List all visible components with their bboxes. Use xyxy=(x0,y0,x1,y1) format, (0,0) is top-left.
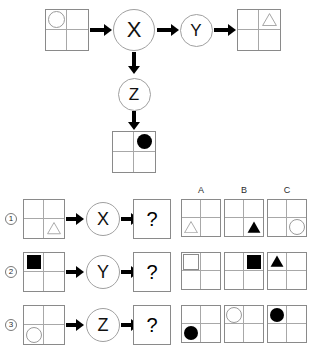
grid-cell-bottom-right xyxy=(67,30,88,50)
output-grid-y xyxy=(237,9,281,51)
row-3-option-B[interactable] xyxy=(224,305,264,343)
row-2-option-C[interactable] xyxy=(267,252,307,290)
filled-square-icon xyxy=(27,255,41,269)
row-1-option-B[interactable] xyxy=(224,199,264,237)
row-3-option-A[interactable] xyxy=(181,305,221,343)
row-1-question-box: ? xyxy=(133,199,171,239)
outlined-triangle-icon xyxy=(262,13,277,26)
row-2-option-B[interactable] xyxy=(224,252,264,290)
row-1-option-C[interactable] xyxy=(267,199,307,237)
grid-cell-top-left xyxy=(238,10,259,30)
grid-cell-top-right xyxy=(44,253,64,272)
row-1-option-A[interactable] xyxy=(181,199,221,237)
node-z: Z xyxy=(118,78,151,111)
input-grid xyxy=(45,9,89,51)
grid-cell-bottom-right xyxy=(287,218,306,236)
grid-cell-bottom-left xyxy=(268,271,287,289)
grid-cell-top-right xyxy=(44,200,64,219)
node-x: X xyxy=(113,9,155,51)
grid-cell-bottom-right xyxy=(44,219,64,238)
grid-cell-bottom-left xyxy=(182,218,201,236)
output-grid-z xyxy=(112,131,156,173)
outlined-circle-icon xyxy=(26,327,42,343)
row-3-operator-z: Z xyxy=(86,308,120,342)
outlined-circle-icon xyxy=(289,219,305,235)
outlined-triangle-icon xyxy=(184,221,198,233)
grid-cell-top-right xyxy=(201,306,220,324)
grid-cell-bottom-left xyxy=(24,272,44,291)
grid-cell-top-left xyxy=(46,10,67,30)
row-2-input-grid xyxy=(23,252,65,292)
grid-cell-bottom-left xyxy=(46,30,67,50)
grid-cell-top-left xyxy=(182,253,201,271)
grid-cell-bottom-right xyxy=(201,218,220,236)
grid-cell-bottom-left xyxy=(268,218,287,236)
grid-cell-bottom-right xyxy=(44,272,64,291)
grid-cell-bottom-left xyxy=(225,218,244,236)
outlined-circle-icon xyxy=(226,307,242,323)
grid-cell-top-right xyxy=(287,306,306,324)
puzzle-canvas: XYZ ABC1X?2Y?3Z? xyxy=(0,0,313,363)
filled-triangle-icon xyxy=(247,221,261,233)
grid-cell-bottom-right xyxy=(201,271,220,289)
grid-cell-bottom-right xyxy=(201,324,220,342)
grid-cell-bottom-left xyxy=(182,271,201,289)
grid-cell-top-right xyxy=(134,132,155,152)
outlined-triangle-icon xyxy=(47,222,61,234)
row-number-3: 3 xyxy=(5,319,17,331)
column-header-b: B xyxy=(224,186,264,195)
grid-cell-bottom-left xyxy=(24,219,44,238)
row-3-input-grid xyxy=(23,305,65,345)
grid-cell-top-left xyxy=(268,253,287,271)
grid-cell-top-right xyxy=(67,10,88,30)
row-1-operator-x: X xyxy=(86,202,120,236)
grid-cell-bottom-right xyxy=(287,271,306,289)
grid-cell-top-left xyxy=(268,306,287,324)
outlined-circle-icon xyxy=(48,11,65,28)
grid-cell-top-left xyxy=(268,200,287,218)
grid-cell-top-left xyxy=(24,200,44,219)
grid-cell-bottom-right xyxy=(259,30,280,50)
filled-square-icon xyxy=(247,255,261,269)
grid-cell-top-left xyxy=(113,132,134,152)
filled-circle-icon xyxy=(270,308,284,322)
row-number-1: 1 xyxy=(5,213,17,225)
grid-cell-bottom-right xyxy=(244,218,263,236)
grid-cell-top-right xyxy=(287,200,306,218)
row-2-question-box: ? xyxy=(133,252,171,292)
grid-cell-bottom-left xyxy=(182,324,201,342)
grid-cell-top-right xyxy=(244,306,263,324)
grid-cell-bottom-right xyxy=(244,271,263,289)
grid-cell-top-left xyxy=(182,306,201,324)
grid-cell-top-right xyxy=(201,253,220,271)
column-header-a: A xyxy=(181,186,221,195)
grid-cell-top-left xyxy=(225,253,244,271)
row-number-2: 2 xyxy=(5,266,17,278)
grid-cell-top-right xyxy=(244,200,263,218)
grid-cell-bottom-right xyxy=(244,324,263,342)
grid-cell-top-left xyxy=(225,306,244,324)
outlined-square-icon xyxy=(183,254,199,270)
filled-triangle-icon xyxy=(270,255,284,267)
grid-cell-top-right xyxy=(44,306,64,325)
row-3-question-box: ? xyxy=(133,305,171,345)
column-header-c: C xyxy=(267,186,307,195)
grid-cell-bottom-left xyxy=(24,325,44,344)
row-2-option-A[interactable] xyxy=(181,252,221,290)
grid-cell-top-right xyxy=(287,253,306,271)
grid-cell-bottom-left xyxy=(225,271,244,289)
grid-cell-top-left xyxy=(24,253,44,272)
grid-cell-top-right xyxy=(244,253,263,271)
grid-cell-top-right xyxy=(259,10,280,30)
grid-cell-top-left xyxy=(225,200,244,218)
grid-cell-top-left xyxy=(182,200,201,218)
grid-cell-bottom-left xyxy=(225,324,244,342)
grid-cell-bottom-right xyxy=(287,324,306,342)
grid-cell-bottom-left xyxy=(113,152,134,172)
row-1-input-grid xyxy=(23,199,65,239)
filled-circle-icon xyxy=(137,134,152,149)
row-3-option-C[interactable] xyxy=(267,305,307,343)
grid-cell-bottom-right xyxy=(134,152,155,172)
grid-cell-top-left xyxy=(24,306,44,325)
grid-cell-top-right xyxy=(201,200,220,218)
